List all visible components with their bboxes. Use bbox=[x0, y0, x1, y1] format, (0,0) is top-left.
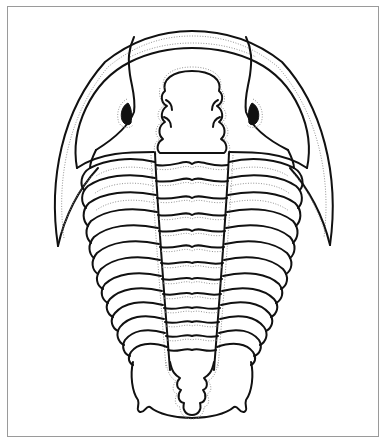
glabella bbox=[154, 67, 229, 155]
eyes bbox=[118, 99, 263, 127]
pygidium bbox=[132, 362, 253, 419]
trilobite-drawing bbox=[0, 0, 385, 443]
eye-left-icon bbox=[121, 103, 131, 125]
thorax bbox=[82, 153, 303, 370]
eye-right-icon bbox=[248, 103, 258, 125]
